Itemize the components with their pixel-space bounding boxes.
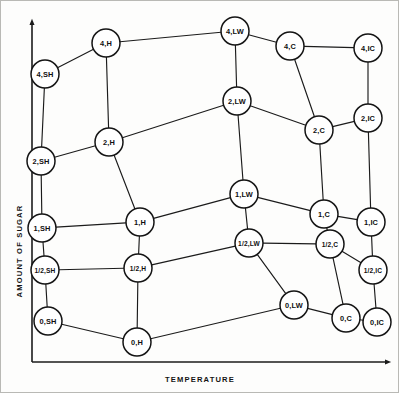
- diagram-node[interactable]: 4,H: [92, 29, 120, 57]
- diagram-node[interactable]: 1/2,SH: [31, 256, 59, 284]
- node-label: 0,C: [340, 314, 352, 323]
- node-label: 0,IC: [370, 318, 385, 327]
- diagram-edge: [56, 223, 126, 227]
- diagram-node[interactable]: 4,SH: [31, 60, 59, 88]
- node-label: 1/2,LW: [238, 240, 260, 248]
- diagram-edge: [308, 308, 333, 314]
- diagram-node[interactable]: 1/2,IC: [359, 256, 387, 284]
- diagram-edge: [46, 284, 47, 307]
- node-label: 2,LW: [228, 97, 246, 106]
- diagram-edge: [374, 284, 376, 308]
- node-label: 1,C: [318, 210, 330, 219]
- node-layer: 4,SH4,H4,LW4,C4,IC2,SH2,H2,LW2,C2,IC1,SH…: [27, 17, 391, 356]
- diagram-edge: [342, 251, 361, 263]
- diagram-edge: [338, 216, 357, 219]
- diagram-edge: [249, 35, 277, 43]
- node-label: 1,IC: [364, 218, 379, 227]
- diagram-edge: [122, 105, 223, 137]
- diagram-node[interactable]: 4,IC: [354, 34, 382, 62]
- diagram-node[interactable]: 0,H: [123, 328, 151, 356]
- diagram-node[interactable]: 0,LW: [280, 291, 308, 319]
- diagram-node[interactable]: 1,H: [126, 208, 154, 236]
- diagram-edge: [263, 243, 316, 244]
- diagram-node[interactable]: 1/2,C: [316, 230, 344, 258]
- diagram-node[interactable]: 1,SH: [28, 214, 56, 242]
- diagram-edge: [43, 242, 44, 256]
- diagram-edge: [235, 45, 236, 87]
- diagram-edge: [333, 258, 343, 305]
- diagram-edge: [139, 236, 140, 254]
- diagram-edge: [57, 49, 93, 67]
- diagram-node[interactable]: 4,LW: [221, 17, 249, 45]
- diagram-figure: 4,SH4,H4,LW4,C4,IC2,SH2,H2,LW2,C2,IC1,SH…: [0, 0, 399, 393]
- diagram-edge: [154, 198, 231, 219]
- diagram-edge: [250, 106, 306, 126]
- diagram-edge: [320, 144, 323, 200]
- diagram-edge: [372, 236, 373, 256]
- node-label: 2,SH: [32, 157, 49, 166]
- edge-layer: [41, 32, 376, 338]
- diagram-edge: [137, 282, 138, 328]
- node-label: 4,LW: [226, 27, 244, 36]
- node-label: 0,SH: [39, 317, 56, 326]
- diagram-node[interactable]: 2,LW: [223, 87, 251, 115]
- node-label: 4,IC: [361, 44, 376, 53]
- node-label: 1,H: [134, 218, 146, 227]
- node-label: 2,H: [103, 138, 115, 147]
- diagram-node[interactable]: 0,C: [332, 304, 360, 332]
- y-axis-label: AMOUNT OF SUGAR: [15, 205, 24, 298]
- diagram-node[interactable]: 2,IC: [354, 104, 382, 132]
- diagram-canvas: 4,SH4,H4,LW4,C4,IC2,SH2,H2,LW2,C2,IC1,SH…: [0, 0, 399, 393]
- diagram-edge: [41, 175, 42, 214]
- diagram-edge: [120, 32, 221, 41]
- diagram-node[interactable]: 0,SH: [34, 307, 62, 335]
- diagram-edge: [54, 146, 95, 157]
- node-label: 1/2,SH: [34, 267, 55, 275]
- node-label: 4,SH: [36, 70, 53, 79]
- node-label: 2,C: [313, 126, 325, 135]
- node-label: 0,H: [131, 338, 143, 347]
- diagram-node[interactable]: 4,C: [276, 32, 304, 60]
- diagram-node[interactable]: 2,H: [95, 128, 123, 156]
- diagram-node[interactable]: 2,SH: [27, 147, 55, 175]
- diagram-edge: [62, 324, 124, 339]
- node-label: 2,IC: [361, 114, 376, 123]
- diagram-node[interactable]: 1/2,LW: [235, 229, 263, 257]
- node-label: 4,H: [100, 39, 112, 48]
- figure-border: [1, 1, 399, 393]
- diagram-edge: [151, 308, 281, 339]
- diagram-node[interactable]: 1,IC: [357, 208, 385, 236]
- diagram-node[interactable]: 2,C: [305, 116, 333, 144]
- diagram-edge: [304, 46, 354, 47]
- diagram-edge: [238, 115, 243, 180]
- diagram-edge: [333, 121, 355, 126]
- node-label: 1/2,IC: [364, 267, 383, 275]
- diagram-node[interactable]: 1,LW: [230, 180, 258, 208]
- diagram-edge: [106, 57, 108, 128]
- node-label: 1/2,C: [322, 241, 339, 249]
- diagram-node[interactable]: 1,C: [310, 200, 338, 228]
- diagram-node[interactable]: 0,IC: [363, 308, 391, 336]
- diagram-edge: [258, 197, 311, 210]
- diagram-edge: [152, 246, 236, 265]
- diagram-edge: [114, 155, 135, 209]
- diagram-edge: [368, 132, 370, 208]
- node-label: 4,C: [284, 42, 296, 51]
- node-label: 0,LW: [285, 301, 303, 310]
- diagram-edge: [245, 208, 247, 229]
- diagram-node[interactable]: 1/2,H: [124, 254, 152, 282]
- node-label: 1,SH: [33, 224, 50, 233]
- diagram-edge: [295, 59, 315, 117]
- diagram-edge: [257, 254, 286, 293]
- node-label: 1,LW: [235, 190, 253, 199]
- node-label: 1/2,H: [130, 265, 147, 273]
- diagram-edge: [42, 88, 45, 147]
- diagram-edge: [59, 268, 124, 269]
- x-axis-label: TEMPERATURE: [165, 375, 235, 384]
